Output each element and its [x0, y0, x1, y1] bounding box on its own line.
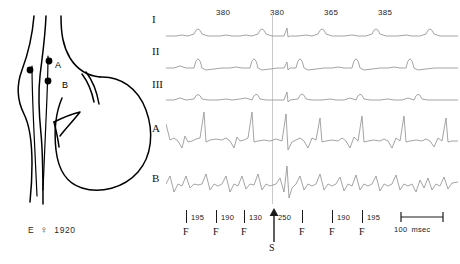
stimulus-arrow-icon	[268, 208, 280, 242]
traces-panel: 380 380 365 385 I II III	[150, 0, 460, 264]
ruler-marker-caption-1: F	[183, 226, 189, 237]
trace-row-lead-iii: III	[150, 78, 460, 108]
trace-row-channel-a: A	[150, 108, 460, 160]
ruler-tick-1	[186, 210, 187, 223]
interval-ruler: 195 190 130 250 190 195 F F F F F F S	[150, 206, 460, 264]
valve-line-upper	[82, 74, 94, 102]
ruler-interval-1: 195	[191, 213, 204, 222]
electrode-dot-b	[45, 78, 52, 85]
scale-bar-value: 100	[394, 225, 407, 234]
electrode-dot-a	[46, 58, 53, 65]
ruler-marker-caption-4: F	[299, 226, 305, 237]
ruler-marker-caption-3: F	[241, 226, 247, 237]
trace-row-lead-ii: II	[150, 44, 460, 78]
vessel-outline-inner	[39, 16, 46, 204]
ruler-marker-caption-6: F	[359, 226, 365, 237]
trace-label-lead-iii: III	[152, 78, 163, 90]
atrium-contour	[61, 16, 100, 77]
trace-waveform-lead-iii	[166, 78, 458, 108]
vessel-outline-left	[18, 16, 34, 202]
catheter-shaft-secondary	[32, 66, 37, 196]
trace-waveform-lead-ii	[166, 44, 458, 78]
ruler-tick-3	[244, 210, 245, 223]
electrode-label-b: B	[62, 80, 68, 90]
ruler-interval-5: 190	[337, 213, 350, 222]
ruler-tick-4	[302, 210, 303, 223]
ruler-tick-6	[362, 210, 363, 223]
trace-waveform-lead-i	[166, 12, 458, 44]
appendage-notch	[54, 112, 80, 136]
scale-bar-icon	[398, 210, 446, 222]
trace-label-channel-a: A	[152, 122, 160, 134]
trace-label-lead-ii: II	[152, 45, 159, 57]
ecg-figure: A B E ♀ 1920 380 380 365 385 I II	[0, 0, 460, 264]
female-symbol-icon: ♀	[37, 224, 51, 235]
catheter-shaft-primary	[43, 56, 48, 190]
ruler-marker-caption-2: F	[213, 226, 219, 237]
scale-bar-label: 100msec	[394, 225, 431, 234]
ruler-tick-2	[216, 210, 217, 223]
scale-bar-unit: msec	[411, 225, 430, 234]
ventricle-outline	[55, 77, 150, 190]
patient-year: 1920	[54, 225, 75, 235]
patient-caption: E ♀ 1920	[28, 224, 76, 235]
trace-waveform-channel-a	[166, 108, 458, 160]
ruler-interval-6: 195	[367, 213, 380, 222]
ruler-interval-3: 130	[249, 213, 262, 222]
trace-waveform-channel-b	[166, 162, 458, 208]
stimulus-caption: S	[269, 242, 275, 253]
electrode-dot-reference	[27, 67, 34, 74]
ruler-tick-5	[332, 210, 333, 223]
trace-row-channel-b: B	[150, 162, 460, 208]
trace-row-lead-i: I	[150, 12, 460, 44]
ruler-marker-caption-5: F	[329, 226, 335, 237]
ruler-interval-2: 190	[221, 213, 234, 222]
trace-label-channel-b: B	[152, 172, 159, 184]
anatomy-panel: A B E ♀ 1920	[0, 0, 170, 264]
heart-anatomy-drawing	[8, 14, 160, 210]
electrode-label-a: A	[55, 60, 61, 70]
trace-label-lead-i: I	[152, 13, 156, 25]
patient-initial: E	[28, 225, 34, 235]
